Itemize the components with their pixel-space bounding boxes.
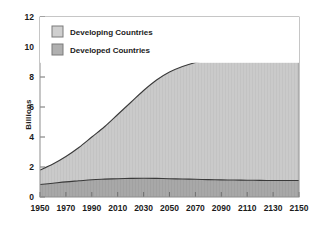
chart-legend — [40, 17, 299, 63]
y-tick-label: 12 — [25, 12, 35, 22]
x-tick-label: 2090 — [212, 203, 231, 213]
legend-swatch — [52, 26, 63, 37]
y-tick-label: 8 — [29, 72, 34, 82]
legend-label: Developing Countries — [70, 28, 153, 37]
population-projection-chart: 024681012 195019701990201020302050207020… — [0, 0, 315, 229]
x-tick-label: 2030 — [134, 203, 153, 213]
x-tick-label: 2070 — [186, 203, 205, 213]
legend-divider — [40, 62, 299, 63]
y-tick-label: 10 — [25, 42, 35, 52]
y-tick-label: 6 — [29, 102, 34, 112]
x-tick-label: 1970 — [56, 203, 75, 213]
chart-canvas: 024681012 195019701990201020302050207020… — [0, 0, 315, 229]
x-tick-label: 2150 — [290, 203, 309, 213]
legend-label: Developed Countries — [70, 46, 151, 55]
x-tick-label: 2110 — [238, 203, 257, 213]
x-tick-label: 2130 — [264, 203, 283, 213]
y-tick-label: 4 — [29, 132, 34, 142]
legend-background — [40, 17, 299, 62]
x-tick-label: 1990 — [82, 203, 101, 213]
y-tick-label: 0 — [29, 192, 34, 202]
x-tick-label: 1950 — [31, 203, 50, 213]
legend-swatch — [52, 44, 63, 55]
x-tick-label: 2010 — [108, 203, 127, 213]
x-tick-label: 2050 — [160, 203, 179, 213]
y-tick-label: 2 — [29, 162, 34, 172]
